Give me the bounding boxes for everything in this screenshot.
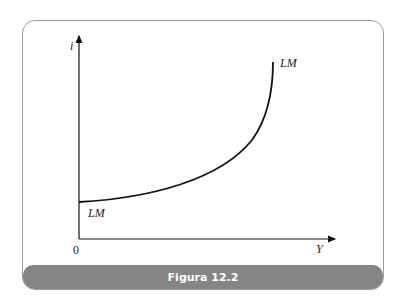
lm-end-label: LM [279,56,298,70]
origin-label: 0 [73,243,79,257]
lm-start-label: LM [87,206,106,220]
lm-chart: i Y 0 LM LM [0,0,402,303]
lm-curve [79,62,273,202]
x-axis-label: Y [316,242,324,256]
y-axis-label: i [70,39,73,53]
